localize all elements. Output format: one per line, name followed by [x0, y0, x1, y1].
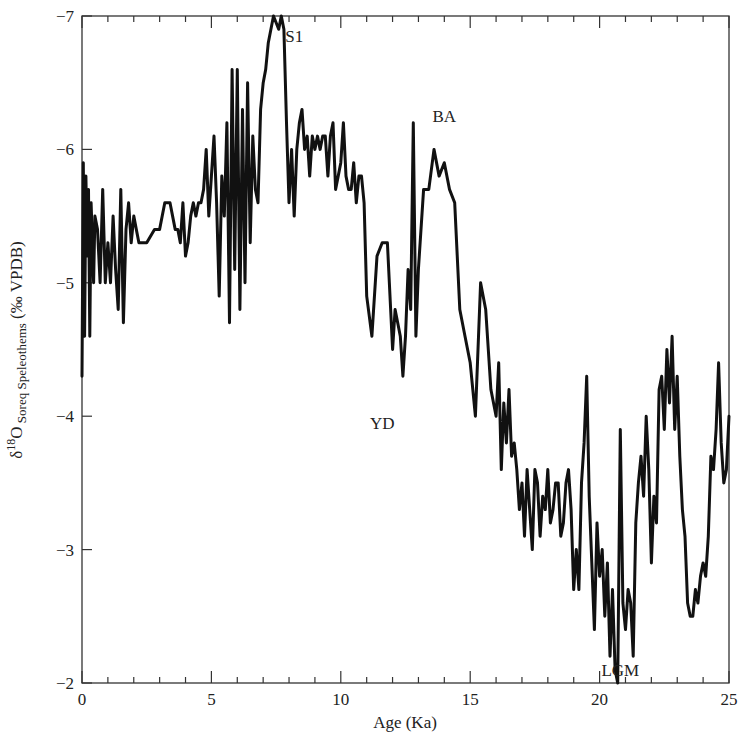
annotation-s1: S1: [285, 27, 303, 46]
x-tick-label: 5: [207, 690, 216, 709]
y-tick-label: −7: [56, 7, 75, 26]
annotation-yd: YD: [370, 414, 395, 433]
y-title-sub: Soreq Speleothems: [14, 323, 29, 426]
x-tick-label: 0: [78, 690, 87, 709]
y-tick-label: −5: [56, 274, 74, 293]
x-tick-label: 10: [332, 690, 349, 709]
data-series-line: [82, 16, 729, 683]
event-annotations: S1BAYDLGM: [285, 27, 639, 680]
y-tick-label: −4: [56, 407, 75, 426]
y-title-main: O: [7, 426, 26, 438]
y-title-sup: 18: [4, 439, 18, 451]
x-axis-ticks: 0510152025: [78, 16, 738, 709]
y-tick-label: −2: [56, 674, 74, 693]
chart-figure: 0510152025 −7−6−5−4−3−2 S1BAYDLGM Age (K…: [0, 0, 744, 740]
y-title-units: (‰ VPDB): [7, 241, 26, 323]
y-title-delta: δ: [7, 451, 26, 459]
annotation-lgm: LGM: [601, 661, 639, 680]
y-axis-ticks: −7−6−5−4−3−2: [56, 7, 92, 693]
annotation-ba: BA: [433, 107, 457, 126]
x-axis-title: Age (Ka): [373, 713, 437, 732]
y-axis-title: δ18O Soreq Speleothems (‰ VPDB): [4, 241, 29, 458]
x-tick-label: 20: [591, 690, 608, 709]
y-tick-label: −3: [56, 541, 74, 560]
y-tick-label: −6: [56, 140, 74, 159]
x-tick-label: 25: [721, 690, 738, 709]
x-tick-label: 15: [462, 690, 479, 709]
